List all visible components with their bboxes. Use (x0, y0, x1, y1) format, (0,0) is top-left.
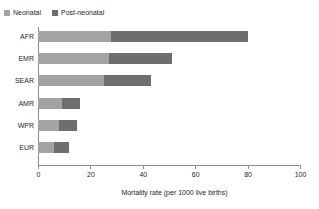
x-axis-tick (143, 165, 144, 169)
x-axis-line (38, 165, 301, 166)
chart-legend: Neonatal Post-neonatal (4, 9, 104, 16)
x-axis-tick (195, 165, 196, 169)
bar-segment-neonatal[interactable] (38, 75, 104, 86)
bar-segment-post-neonatal[interactable] (109, 53, 172, 64)
legend-swatch-neonatal (4, 10, 10, 16)
legend-swatch-post-neonatal (52, 10, 58, 16)
plot-area (38, 27, 300, 165)
bar-row[interactable] (38, 98, 80, 109)
bar-segment-post-neonatal[interactable] (111, 31, 247, 42)
bar-segment-neonatal[interactable] (38, 98, 62, 109)
bar-segment-neonatal[interactable] (38, 53, 109, 64)
x-axis-tick (300, 165, 301, 169)
x-axis-tick-label: 80 (244, 171, 252, 178)
x-axis-tick (38, 165, 39, 169)
bar-row[interactable] (38, 53, 172, 64)
x-axis-title: Mortality rate (per 1000 live births) (0, 189, 319, 197)
x-axis-tick-label: 40 (139, 171, 147, 178)
bar-row[interactable] (38, 120, 77, 131)
bar-segment-neonatal[interactable] (38, 120, 59, 131)
bar-row[interactable] (38, 142, 69, 153)
y-axis-label-sear: SEAR (0, 77, 34, 84)
bar-segment-post-neonatal[interactable] (54, 142, 70, 153)
y-axis-label-eur: EUR (0, 144, 34, 151)
bar-segment-post-neonatal[interactable] (62, 98, 80, 109)
bar-row[interactable] (38, 75, 151, 86)
x-axis-tick (90, 165, 91, 169)
legend-label-neonatal: Neonatal (13, 9, 41, 16)
x-axis-tick-label: 0 (37, 171, 41, 178)
legend-item-post-neonatal[interactable]: Post-neonatal (52, 9, 104, 16)
y-axis-label-amr: AMR (0, 100, 34, 107)
y-axis-label-afr: AFR (0, 33, 34, 40)
x-axis-tick-label: 100 (295, 171, 307, 178)
bar-segment-post-neonatal[interactable] (104, 75, 151, 86)
legend-item-neonatal[interactable]: Neonatal (4, 9, 41, 16)
bar-segment-neonatal[interactable] (38, 142, 54, 153)
bar-segment-neonatal[interactable] (38, 31, 111, 42)
x-axis-tick-label: 60 (192, 171, 200, 178)
x-axis-tick-label: 20 (87, 171, 95, 178)
x-axis-tick (248, 165, 249, 169)
y-axis-label-wpr: WPR (0, 122, 34, 129)
y-axis-label-emr: EMR (0, 55, 34, 62)
bar-row[interactable] (38, 31, 248, 42)
bar-segment-post-neonatal[interactable] (59, 120, 77, 131)
y-axis-labels: AFREMRSEARAMRWPREUR (0, 27, 34, 165)
legend-label-post-neonatal: Post-neonatal (61, 9, 104, 16)
